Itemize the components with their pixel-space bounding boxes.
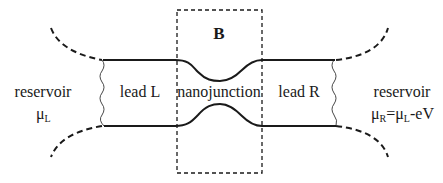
mu-r-symbol: μ [371, 105, 380, 123]
mu-subscript: L [45, 113, 51, 124]
left-reservoir-potential: μL [36, 105, 51, 124]
right-reservoir-label: reservoir [374, 83, 432, 100]
lead-left-label: lead L [120, 83, 160, 100]
equals-sign: = [386, 105, 395, 122]
nanojunction-diagram: B reservoir μL lead L nanojunction lead … [0, 0, 443, 183]
mu-l-symbol: μ [395, 105, 404, 123]
left-reservoir-top-arc [51, 28, 102, 60]
right-reservoir-top-arc [336, 28, 388, 60]
left-wavy-boundary [100, 60, 104, 126]
left-reservoir-label: reservoir [15, 83, 73, 100]
mu-symbol: μ [36, 105, 45, 123]
lead-bottom-edge [104, 104, 336, 126]
lead-top-edge [103, 60, 335, 81]
lead-right-label: lead R [278, 83, 320, 100]
box-label-b: B [213, 24, 224, 43]
right-reservoir-potential: μR=μL-eV [371, 105, 434, 124]
left-reservoir-bottom-arc [51, 126, 102, 157]
right-reservoir-bottom-arc [336, 126, 388, 157]
bias-term: -eV [410, 105, 434, 122]
nanojunction-label: nanojunction [177, 83, 261, 101]
right-wavy-boundary [332, 60, 337, 126]
